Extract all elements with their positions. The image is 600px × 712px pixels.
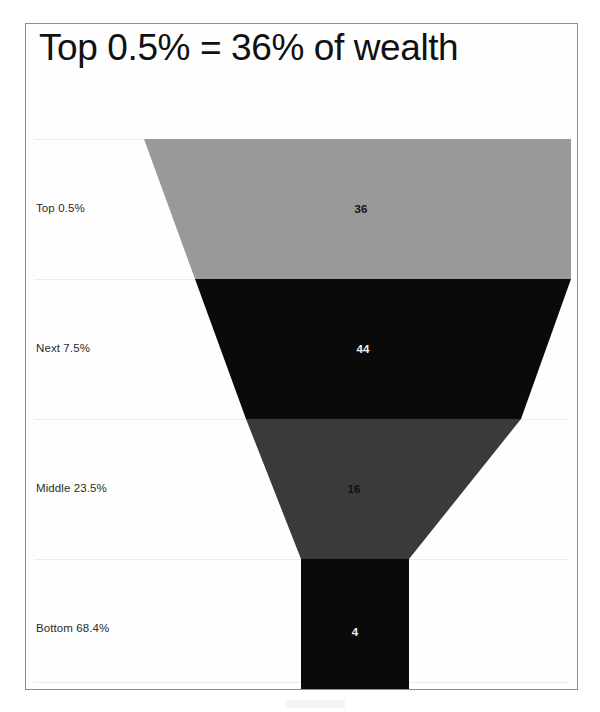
funnel-value-label-1: 36 xyxy=(354,203,367,215)
funnel-value-label-2: 44 xyxy=(356,343,369,355)
funnel-category-label-4: Bottom 68.4% xyxy=(36,622,109,634)
funnel-shape xyxy=(26,92,577,689)
funnel-value-label-3: 16 xyxy=(347,483,360,495)
funnel-category-label-3: Middle 23.5% xyxy=(36,482,107,494)
scan-artifact xyxy=(285,700,345,708)
chart-frame: Top 0.5% = 36% of wealth Top 0.5% Next 7… xyxy=(25,23,578,690)
funnel-segment-4[interactable] xyxy=(301,559,409,689)
funnel-category-label-1: Top 0.5% xyxy=(36,202,85,214)
funnel-value-label-4: 4 xyxy=(352,626,359,638)
funnel-segment-2[interactable] xyxy=(195,279,571,419)
chart-title: Top 0.5% = 36% of wealth xyxy=(39,26,458,70)
funnel-category-label-2: Next 7.5% xyxy=(36,342,90,354)
funnel-plot-area: Top 0.5% Next 7.5% Middle 23.5% Bottom 6… xyxy=(26,92,577,689)
funnel-segment-3[interactable] xyxy=(246,419,521,559)
